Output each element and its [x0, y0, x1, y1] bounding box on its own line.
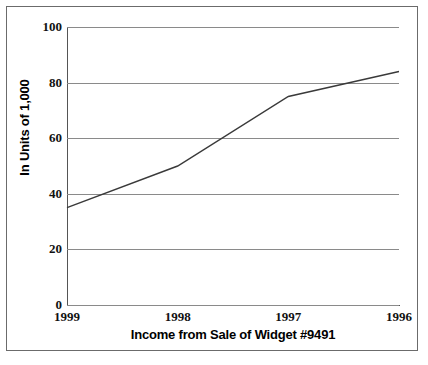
chart-figure: 020406080100 1999199819971996 In Units o…: [0, 0, 428, 365]
y-tick-label: 20: [49, 241, 62, 257]
y-axis-title: In Units of 1,000: [17, 28, 32, 228]
x-tick-label: 1999: [54, 309, 80, 325]
x-tick-label: 1997: [275, 309, 301, 325]
x-tick-label: 1996: [386, 309, 412, 325]
y-tick-label: 40: [49, 186, 62, 202]
plot-area: [67, 27, 399, 305]
x-tick-label: 1998: [165, 309, 191, 325]
gridline: [67, 305, 399, 306]
y-tick-label: 80: [49, 75, 62, 91]
series-line-income: [67, 27, 399, 305]
series-polyline: [67, 71, 399, 207]
y-tick-label: 100: [43, 19, 63, 35]
x-axis-title: Income from Sale of Widget #9491: [67, 327, 399, 342]
y-tick-label: 60: [49, 130, 62, 146]
